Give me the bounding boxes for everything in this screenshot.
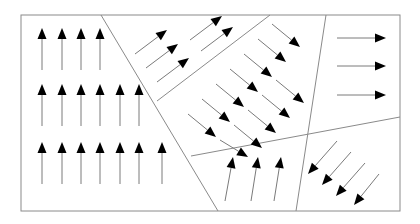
- arrow-down-left-icon: [336, 163, 365, 196]
- arrow-down-left-icon: [322, 152, 351, 185]
- arrow-right-icon: [337, 34, 386, 43]
- arrow-down-right-icon: [244, 54, 272, 77]
- arrow-down-right-icon: [220, 140, 248, 157]
- arrow-up-right-icon: [146, 44, 178, 68]
- arrow-down-right-icon: [230, 69, 258, 92]
- arrow-up-icon: [77, 28, 86, 70]
- boundary-right-vertical: [296, 15, 326, 211]
- arrow-down-right-icon: [248, 110, 276, 133]
- vector-arrows: [38, 16, 387, 205]
- diagram-canvas: [0, 0, 420, 224]
- arrow-up-icon: [116, 84, 125, 126]
- center-region: [188, 24, 304, 157]
- arrow-up-right-icon: [157, 58, 189, 82]
- arrow-down-right-icon: [216, 84, 244, 107]
- arrow-up-icon: [116, 142, 125, 184]
- arrow-up-icon: [38, 28, 47, 70]
- arrow-down-right-icon: [262, 95, 290, 118]
- arrow-down-right-icon: [276, 80, 304, 103]
- region-boundaries: [101, 15, 400, 211]
- arrow-up-icon: [274, 157, 284, 201]
- arrow-down-right-icon: [188, 114, 216, 137]
- arrow-up-icon: [96, 84, 105, 126]
- arrow-up-icon: [96, 142, 105, 184]
- arrow-up-icon: [58, 142, 67, 184]
- boundary-lower-horizontal: [191, 117, 400, 156]
- arrow-up-icon: [96, 28, 105, 70]
- arrow-up-icon: [77, 142, 86, 184]
- arrow-up-icon: [58, 28, 67, 70]
- arrow-up-icon: [225, 157, 235, 201]
- arrow-up-right-icon: [190, 16, 222, 40]
- arrow-up-icon: [58, 84, 67, 126]
- arrow-right-icon: [337, 62, 386, 71]
- arrow-down-left-icon: [354, 174, 379, 205]
- arrow-up-icon: [251, 157, 261, 201]
- arrow-right-icon: [337, 91, 386, 100]
- arrow-down-right-icon: [202, 99, 230, 122]
- arrow-up-icon: [38, 142, 47, 184]
- boundary-left-diagonal: [101, 15, 218, 211]
- arrow-up-icon: [135, 84, 144, 126]
- arrow-down-left-icon: [308, 141, 337, 174]
- left-region: [38, 28, 167, 184]
- bottom-middle-region: [225, 157, 284, 201]
- arrow-up-right-icon: [135, 30, 167, 54]
- arrow-up-icon: [38, 84, 47, 126]
- arrow-up-icon: [77, 84, 86, 126]
- arrow-down-right-icon: [272, 24, 300, 47]
- arrow-down-right-icon: [258, 39, 286, 62]
- arrow-up-icon: [135, 142, 144, 184]
- right-top-region: [337, 34, 386, 100]
- arrow-up-icon: [158, 142, 167, 184]
- arrow-down-right-icon: [234, 125, 262, 148]
- vector-field-diagram: [0, 0, 420, 224]
- bottom-right-region: [308, 141, 379, 205]
- ne-strip-region: [135, 16, 233, 82]
